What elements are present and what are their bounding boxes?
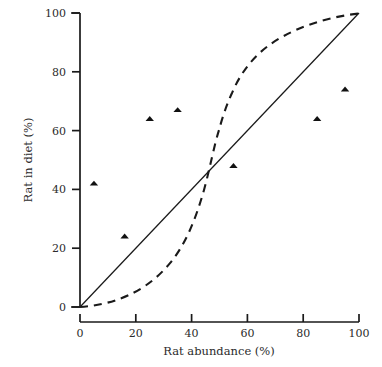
y-axis bbox=[71, 13, 80, 307]
x-tick-label: 0 bbox=[77, 327, 84, 340]
y-tick-label: 20 bbox=[52, 242, 66, 255]
y-tick-labels: 100 80 60 40 20 0 bbox=[45, 7, 66, 314]
data-point-marker bbox=[173, 107, 181, 112]
y-tick-label: 40 bbox=[52, 183, 66, 196]
data-point-marker bbox=[90, 181, 98, 186]
x-tick-label: 40 bbox=[185, 327, 199, 340]
x-tick-labels: 0 20 40 60 80 100 bbox=[77, 327, 370, 340]
data-point-marker bbox=[146, 116, 154, 121]
y-tick-label: 60 bbox=[52, 125, 66, 138]
x-axis bbox=[80, 314, 359, 322]
data-point-marker bbox=[120, 234, 128, 239]
y-tick-label: 100 bbox=[45, 7, 66, 20]
x-tick-label: 80 bbox=[296, 327, 310, 340]
x-tick-label: 20 bbox=[129, 327, 143, 340]
chart-figure: 100 80 60 40 20 0 Rat in diet (%) 0 20 bbox=[0, 0, 382, 367]
scatter-plot-canvas: 100 80 60 40 20 0 Rat in diet (%) 0 20 bbox=[0, 0, 382, 367]
y-tick-label: 80 bbox=[52, 66, 66, 79]
x-axis-title: Rat abundance (%) bbox=[163, 344, 275, 358]
data-point-marker bbox=[313, 116, 321, 121]
x-tick-label: 100 bbox=[349, 327, 370, 340]
series-line-one-to-one bbox=[80, 13, 359, 307]
data-point-marker bbox=[229, 163, 237, 168]
x-tick-label: 60 bbox=[240, 327, 254, 340]
scatter-markers-group bbox=[90, 87, 350, 239]
data-point-marker bbox=[341, 87, 349, 92]
y-tick-label: 0 bbox=[59, 301, 66, 314]
y-axis-title: Rat in diet (%) bbox=[21, 118, 35, 203]
